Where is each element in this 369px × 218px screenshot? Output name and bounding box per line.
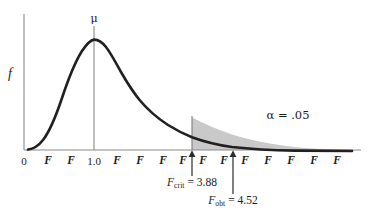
density-curve — [28, 40, 352, 151]
y-axis-label: f — [8, 67, 12, 81]
mean-symbol-label: μ — [90, 13, 97, 24]
f-crit-subscript: crit — [174, 181, 185, 190]
x-tick-label-1: F — [44, 155, 52, 167]
x-tick-label-7: F — [179, 155, 187, 167]
x-tick-label-2: F — [67, 155, 75, 167]
x-tick-label-4: F — [113, 155, 121, 167]
alpha-level-label: α = .05 — [266, 110, 309, 122]
f-obt-arrow — [230, 150, 237, 194]
f-crit-value: 3.88 — [197, 176, 217, 188]
x-tick-label-3: 1.0 — [87, 156, 101, 167]
x-tick-label-8: F — [199, 155, 207, 167]
f-crit-symbol: F — [167, 176, 174, 188]
f-obt-symbol: F — [208, 194, 215, 206]
f-obt-subscript: obt — [215, 199, 225, 208]
x-tick-label-9: F — [220, 155, 228, 167]
x-tick-label-6: F — [159, 155, 167, 167]
f-crit-equals: = — [185, 176, 197, 188]
f-obt-label: Fobt = 4.52 — [208, 195, 257, 207]
x-tick-label-0: 0 — [21, 156, 27, 167]
x-tick-label-11: F — [264, 155, 272, 167]
f-crit-arrow — [189, 150, 196, 176]
x-tick-label-5: F — [136, 155, 144, 167]
f-obt-equals: = — [225, 194, 237, 206]
f-obt-value: 4.52 — [238, 194, 258, 206]
f-crit-label: Fcrit = 3.88 — [167, 177, 217, 189]
x-tick-label-10: F — [241, 155, 249, 167]
x-tick-label-14: F — [333, 155, 341, 167]
f-distribution-figure: f μ α = .05 0 F F 1.0 F F F F F F F F F … — [0, 0, 369, 218]
x-tick-label-13: F — [310, 155, 318, 167]
x-tick-label-12: F — [287, 155, 295, 167]
